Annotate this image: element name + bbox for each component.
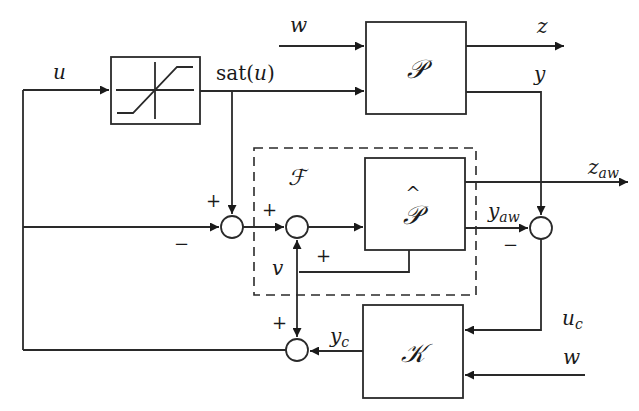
block-diagram: 𝒫 𝒫 ^ 𝒦 u sat: [0, 0, 639, 411]
signal-yc-label: yc: [329, 324, 349, 350]
controller-block[interactable]: 𝒦: [363, 305, 463, 398]
signal-y-label: y: [533, 62, 546, 86]
signal-uc-label: uc: [562, 306, 583, 332]
sign-sum3-left: −: [503, 234, 518, 255]
signal-sat-u-label: sat(u): [216, 61, 275, 85]
saturation-block[interactable]: [111, 57, 200, 124]
sum-junction-4[interactable]: [286, 339, 308, 361]
wire-y-to-sum3: [466, 92, 541, 215]
signal-w-top-label: w: [290, 13, 307, 37]
sign-sum2-bottom: +: [316, 245, 331, 266]
sign-sum4-top: +: [272, 312, 287, 333]
sign-sum2-left: +: [262, 199, 277, 220]
signal-z-label: z: [536, 14, 548, 38]
plant-block[interactable]: 𝒫: [366, 22, 466, 114]
plant-hat-block[interactable]: 𝒫 ^: [365, 158, 465, 250]
sign-sum1-top: +: [206, 190, 221, 211]
sum-junction-1[interactable]: [221, 216, 243, 238]
sum-junction-2[interactable]: [286, 216, 308, 238]
sign-sum1-left: −: [174, 233, 189, 254]
signal-u-label: u: [53, 60, 66, 84]
signal-w-bottom-label: w: [563, 345, 580, 369]
signal-zaw-label: zaw: [587, 155, 619, 181]
filter-label: ℱ: [288, 165, 309, 190]
signal-v-label: v: [272, 256, 284, 280]
hat-accent: ^: [405, 183, 420, 204]
sum-junction-3[interactable]: [530, 217, 552, 239]
signal-yaw-label: yaw: [487, 199, 520, 225]
